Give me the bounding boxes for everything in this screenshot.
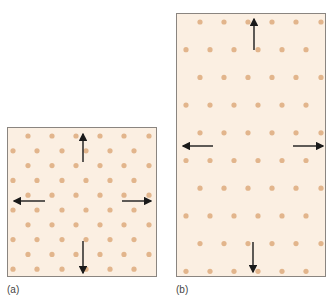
- lattice-point: [146, 133, 151, 138]
- lattice-point: [183, 213, 188, 218]
- lattice-point: [293, 75, 298, 80]
- lattice-point: [255, 103, 260, 108]
- lattice-point: [59, 207, 64, 212]
- lattice-point: [183, 269, 188, 274]
- lattice-point: [197, 75, 202, 80]
- lattice-point: [49, 193, 54, 198]
- lattice-point: [34, 148, 39, 153]
- lattice-point: [303, 269, 308, 274]
- lattice-point: [207, 213, 212, 218]
- lattice-point: [279, 269, 284, 274]
- lattice-point: [318, 130, 323, 135]
- lattice-point: [207, 103, 212, 108]
- lattice-point: [34, 178, 39, 183]
- lattice-point: [245, 75, 250, 80]
- lattice-point: [221, 19, 226, 24]
- lattice-point: [269, 75, 274, 80]
- lattice-point: [269, 130, 274, 135]
- lattice-point: [207, 47, 212, 52]
- lattice-point: [97, 222, 102, 227]
- lattice-point: [97, 163, 102, 168]
- lattice-point: [197, 130, 202, 135]
- lattice-point: [255, 47, 260, 52]
- lattice-point: [146, 252, 151, 257]
- lattice-point: [73, 222, 78, 227]
- lattice-point: [183, 47, 188, 52]
- lattice-point: [303, 158, 308, 163]
- lattice-point: [10, 148, 15, 153]
- lattice-point: [131, 207, 136, 212]
- lattice-point: [245, 19, 250, 24]
- lattice-point: [121, 252, 126, 257]
- panel-a-label: (a): [7, 284, 19, 295]
- lattice-point: [255, 269, 260, 274]
- lattice-point: [107, 178, 112, 183]
- lattice-point: [107, 207, 112, 212]
- lattice-point: [279, 158, 284, 163]
- lattice-point: [303, 103, 308, 108]
- lattice-point: [97, 252, 102, 257]
- lattice-point: [318, 19, 323, 24]
- lattice-point: [269, 241, 274, 246]
- lattice-point: [121, 222, 126, 227]
- lattice-point: [10, 207, 15, 212]
- lattice-point: [59, 178, 64, 183]
- lattice-point: [231, 269, 236, 274]
- lattice-point: [73, 163, 78, 168]
- lattice-point: [10, 267, 15, 272]
- lattice-point: [146, 222, 151, 227]
- lattice-point: [83, 178, 88, 183]
- lattice-point: [49, 252, 54, 257]
- lattice-point: [83, 267, 88, 272]
- lattice-point: [121, 133, 126, 138]
- lattice-point: [73, 252, 78, 257]
- lattice-point: [255, 158, 260, 163]
- lattice-point: [10, 178, 15, 183]
- lattice-point: [221, 130, 226, 135]
- lattice-point: [245, 186, 250, 191]
- lattice-point: [10, 237, 15, 242]
- lattice-point: [269, 19, 274, 24]
- lattice-point: [279, 103, 284, 108]
- lattice-point: [59, 148, 64, 153]
- lattice-point: [83, 207, 88, 212]
- lattice-point: [131, 267, 136, 272]
- lattice-point: [107, 267, 112, 272]
- lattice-point: [97, 133, 102, 138]
- lattice-point: [221, 241, 226, 246]
- lattice-point: [221, 186, 226, 191]
- lattice-point: [83, 148, 88, 153]
- lattice-point: [146, 163, 151, 168]
- lattice-point: [207, 269, 212, 274]
- lattice-point: [197, 241, 202, 246]
- lattice-point: [303, 213, 308, 218]
- lattice-point: [59, 237, 64, 242]
- lattice-b-svg: [177, 14, 327, 278]
- lattice-point: [245, 241, 250, 246]
- lattice-point: [245, 130, 250, 135]
- lattice-point: [121, 193, 126, 198]
- lattice-point: [131, 178, 136, 183]
- lattice-point: [34, 207, 39, 212]
- lattice-point: [255, 213, 260, 218]
- lattice-point: [59, 267, 64, 272]
- lattice-point: [34, 237, 39, 242]
- lattice-point: [49, 163, 54, 168]
- panel-a-lattice: [7, 127, 157, 277]
- lattice-point: [293, 186, 298, 191]
- lattice-point: [107, 237, 112, 242]
- lattice-point: [231, 103, 236, 108]
- lattice-a-svg: [8, 128, 158, 278]
- lattice-point: [207, 158, 212, 163]
- lattice-point: [25, 222, 30, 227]
- lattice-point: [231, 158, 236, 163]
- lattice-point: [73, 193, 78, 198]
- lattice-point: [25, 252, 30, 257]
- lattice-point: [25, 193, 30, 198]
- lattice-point: [231, 213, 236, 218]
- lattice-point: [131, 148, 136, 153]
- lattice-point: [318, 75, 323, 80]
- lattice-point: [197, 19, 202, 24]
- lattice-point: [221, 75, 226, 80]
- lattice-point: [83, 237, 88, 242]
